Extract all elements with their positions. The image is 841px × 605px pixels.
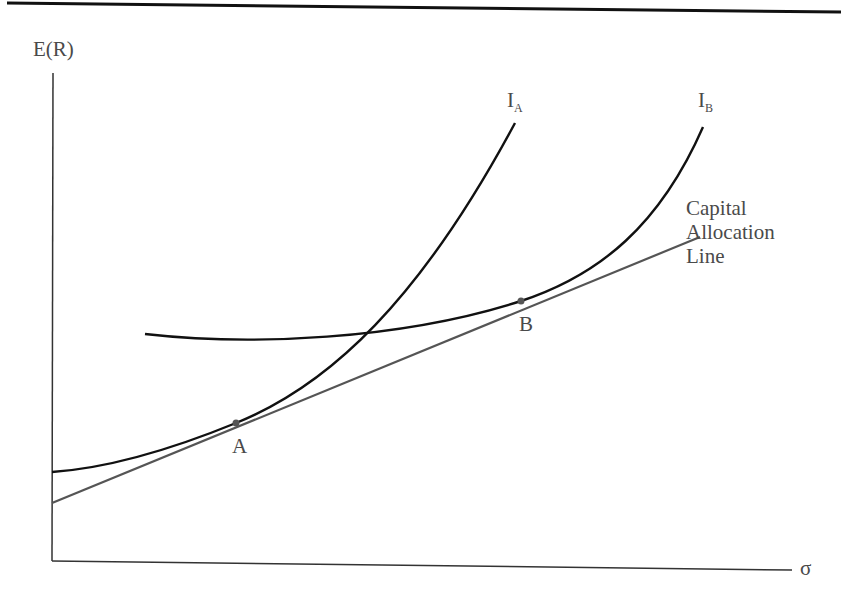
indifference-curve-a — [52, 123, 515, 472]
point-a-marker — [233, 420, 240, 427]
curve-label-ib-sub: B — [705, 101, 713, 115]
indifference-curve-b — [145, 127, 703, 340]
cal-label-line1: Capital — [686, 196, 775, 220]
x-axis-label: σ — [800, 558, 811, 579]
curve-label-ib: IB — [698, 90, 713, 114]
cal-label-line3: Line — [686, 244, 775, 268]
y-axis — [52, 73, 53, 561]
cal-label-line2: Allocation — [686, 220, 775, 244]
x-axis — [52, 561, 792, 570]
y-axis-label: E(R) — [33, 39, 74, 60]
curve-label-ib-main: I — [698, 88, 705, 112]
capital-allocation-line — [52, 237, 700, 503]
point-a-label: A — [232, 436, 247, 457]
point-b-marker — [518, 298, 525, 305]
curve-label-ia: IA — [507, 90, 523, 114]
curve-label-ia-main: I — [507, 88, 514, 112]
curve-label-ia-sub: A — [514, 101, 523, 115]
chart-canvas — [0, 0, 841, 605]
top-rule — [7, 3, 841, 12]
cal-label: Capital Allocation Line — [686, 196, 775, 268]
point-b-label: B — [519, 314, 533, 335]
